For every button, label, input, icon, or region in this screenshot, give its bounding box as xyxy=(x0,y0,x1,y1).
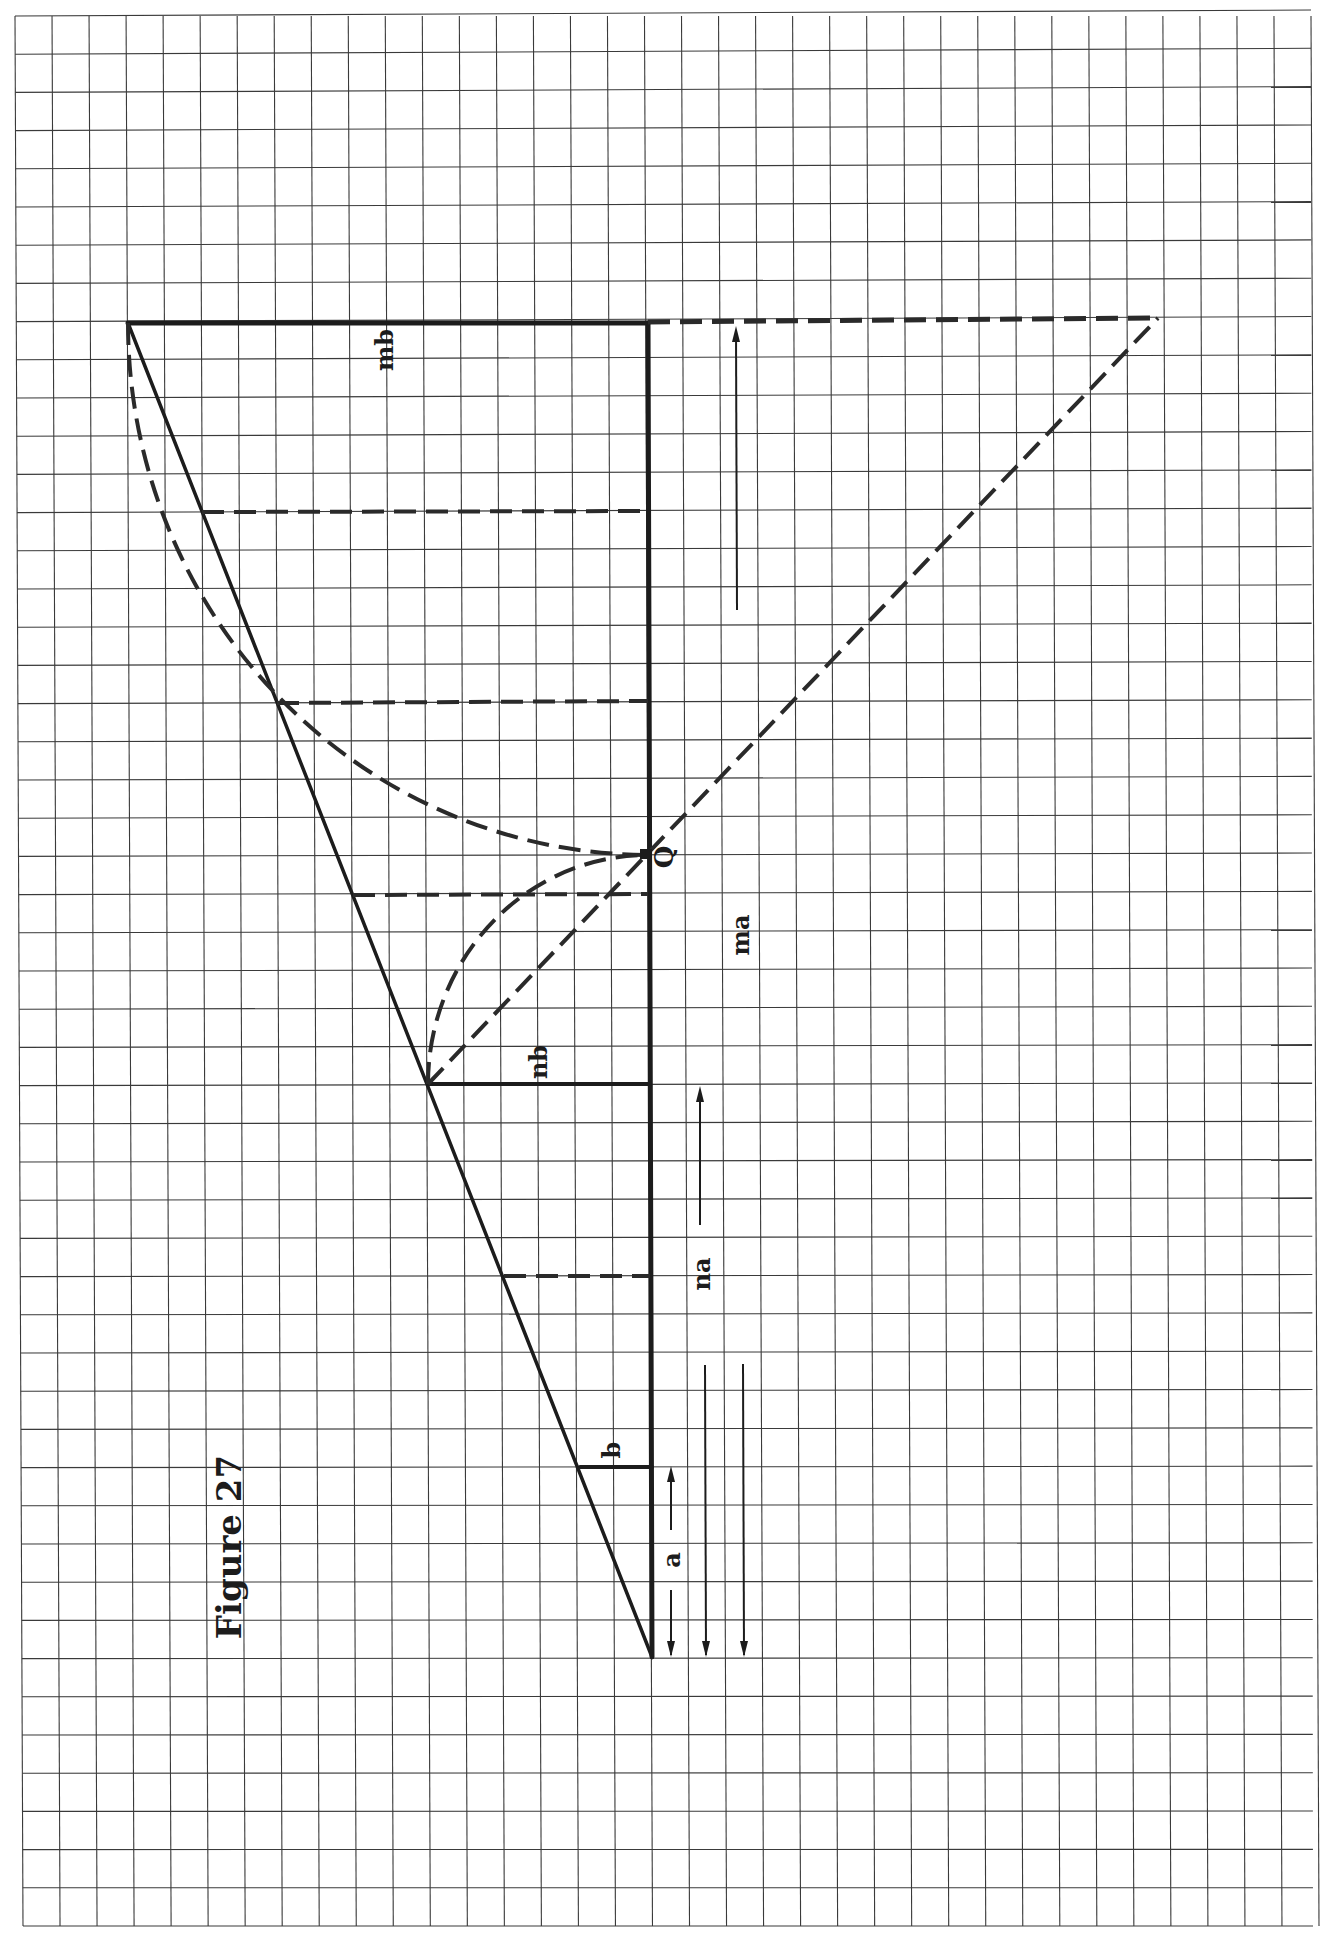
grid-horizontal-line xyxy=(19,891,1312,894)
grid-vertical-line xyxy=(1089,16,1097,1926)
grid-horizontal-line xyxy=(15,87,1311,93)
grid-horizontal-line xyxy=(19,1045,1312,1048)
grid-horizontal-line xyxy=(18,700,1312,704)
grid-horizontal-line xyxy=(22,1696,1313,1697)
label-nb: nb xyxy=(524,1045,553,1079)
grid-vertical-line xyxy=(348,16,356,1926)
grid-vertical-line xyxy=(756,16,764,1926)
grid-horizontal-line xyxy=(16,240,1311,245)
grid-vertical-line xyxy=(607,16,615,1926)
grid-horizontal-line xyxy=(20,1121,1313,1124)
grid-horizontal-line xyxy=(16,202,1311,207)
baseline-line xyxy=(648,323,652,1657)
grid-vertical-line xyxy=(867,16,875,1926)
label-b: b xyxy=(597,1442,626,1459)
grid-vertical-line xyxy=(830,16,838,1926)
grid-horizontal-line xyxy=(20,1198,1312,1200)
grid-horizontal-line xyxy=(17,432,1312,437)
grid-horizontal-line xyxy=(19,930,1312,933)
grid-horizontal-line xyxy=(19,968,1312,971)
grid-vertical-line xyxy=(533,16,541,1926)
grid-vertical-line xyxy=(1163,16,1171,1926)
grid-horizontal-line xyxy=(21,1390,1313,1392)
grid-vertical-line xyxy=(1015,16,1023,1926)
grid-horizontal-line xyxy=(20,1236,1312,1238)
grid-vertical-line xyxy=(1311,16,1319,1926)
grid-vertical-line xyxy=(496,16,504,1926)
grid-horizontal-line xyxy=(18,815,1311,818)
grid-horizontal-line xyxy=(18,776,1312,780)
grid-vertical-line xyxy=(682,16,690,1926)
grid-vertical-line xyxy=(385,16,393,1926)
ma-long-arrow xyxy=(740,1364,748,1657)
grid-horizontal-line xyxy=(17,546,1311,550)
grid-vertical-line xyxy=(459,16,467,1926)
grid-horizontal-line xyxy=(17,585,1311,589)
grid-horizontal-line xyxy=(18,623,1312,627)
grid-horizontal-line xyxy=(21,1428,1313,1430)
grid-vertical-line xyxy=(274,16,282,1926)
grid-vertical-line xyxy=(719,16,727,1926)
figure-27-diagram: mb nb b a na ma Q Figure 27 xyxy=(0,0,1327,1942)
grid-horizontal-line xyxy=(20,1313,1312,1315)
grid-vertical-line xyxy=(904,16,912,1926)
grid-vertical-line xyxy=(1237,16,1245,1926)
grid-horizontal-line xyxy=(22,1658,1313,1659)
figure-title: Figure 27 xyxy=(209,1455,249,1639)
label-na: na xyxy=(687,1258,716,1291)
grid-vertical-line xyxy=(422,16,430,1926)
grid-vertical-line xyxy=(1126,16,1134,1926)
grid-vertical-line xyxy=(1200,16,1208,1926)
grid-horizontal-line xyxy=(15,48,1311,54)
grid-horizontal-line xyxy=(19,1006,1312,1009)
grid-horizontal-line xyxy=(20,1275,1312,1277)
grid-vertical-line xyxy=(793,16,801,1926)
grid-horizontal-line xyxy=(15,10,1311,16)
grid-vertical-line xyxy=(978,16,986,1926)
na-up-arrow xyxy=(696,1086,704,1225)
grid-vertical-line xyxy=(941,16,949,1926)
grid-horizontal-line xyxy=(19,1083,1312,1086)
label-ma: ma xyxy=(726,915,755,956)
grid-horizontal-line xyxy=(16,163,1312,169)
grid-horizontal-line xyxy=(18,661,1312,665)
grid-vertical-line xyxy=(311,16,319,1926)
grid-horizontal-line xyxy=(17,393,1312,398)
na-long-arrow xyxy=(702,1365,710,1657)
dashed-horizontal-3 xyxy=(353,894,648,895)
grid-horizontal-line xyxy=(18,738,1312,742)
mb-up-arrow xyxy=(732,326,740,610)
grid-horizontal-line xyxy=(21,1351,1313,1353)
grid-horizontal-line xyxy=(16,278,1311,283)
grid-vertical-line xyxy=(1052,16,1060,1926)
grid-horizontal-line xyxy=(17,470,1312,475)
grid-horizontal-line xyxy=(22,1734,1313,1735)
label-mb: mb xyxy=(370,329,399,371)
grid-horizontal-line xyxy=(20,1160,1312,1162)
label-q: Q xyxy=(649,846,679,869)
grid-horizontal-line xyxy=(15,125,1311,131)
grid-vertical-line xyxy=(1274,16,1282,1926)
label-a: a xyxy=(657,1552,686,1568)
grid-vertical-line xyxy=(570,16,578,1926)
